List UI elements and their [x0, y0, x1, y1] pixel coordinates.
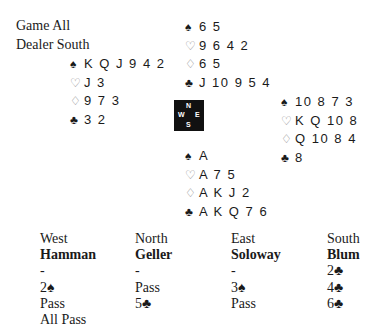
bid: Pass: [135, 280, 231, 296]
compass-north: N: [186, 102, 191, 109]
bid: 6♣: [327, 296, 372, 312]
compass-east: E: [195, 111, 200, 118]
south-diamonds: A K J 2: [199, 185, 251, 200]
heart-icon: ♡: [185, 166, 199, 185]
north-spades: 6 5: [199, 19, 222, 34]
south-hearts: A 7 5: [199, 167, 236, 182]
header-west: West: [40, 231, 135, 247]
club-icon: ♣: [70, 111, 84, 130]
header-south: South: [327, 231, 372, 247]
bidding-round-row: Pass 5♣ Pass 6♣: [40, 296, 372, 312]
south-hand: ♠A ♡A 7 5 ♢A K J 2 ♣A K Q 7 6: [185, 147, 268, 221]
west-diamonds: 9 7 3: [84, 93, 120, 108]
bid: 3♠: [231, 280, 327, 296]
compass-icon: N W E S: [174, 100, 204, 131]
heart-icon: ♡: [281, 112, 295, 131]
heart-icon: ♡: [70, 74, 84, 93]
header-east: East: [231, 231, 327, 247]
compass-south: S: [186, 121, 191, 128]
diamond-icon: ♢: [70, 92, 84, 111]
bid: 2♠: [40, 280, 135, 296]
heart-icon: ♡: [185, 37, 199, 56]
bidding-table: West North East South Hamman Geller Solo…: [40, 231, 372, 326]
north-diamonds: 6 5: [199, 56, 222, 71]
dealer: Dealer South: [16, 35, 89, 54]
bid: -: [231, 263, 327, 279]
spade-icon: ♠: [185, 18, 199, 37]
club-icon: ♣: [281, 149, 295, 168]
player-east: Soloway: [231, 247, 327, 263]
spade-icon: ♠: [281, 93, 295, 112]
deal-info: Game All Dealer South: [16, 16, 89, 54]
bidding-header-row: West North East South: [40, 231, 372, 247]
bid: [135, 312, 231, 326]
diamond-icon: ♢: [281, 130, 295, 149]
east-hand: ♠10 8 7 3 ♡K Q 10 8 ♢Q 10 8 4 ♣8: [281, 93, 358, 167]
west-hand: ♠K Q J 9 4 2 ♡J 3 ♢9 7 3 ♣3 2: [70, 55, 166, 129]
bidding-players-row: Hamman Geller Soloway Blum: [40, 247, 372, 263]
north-clubs: J 10 9 5 4: [199, 75, 271, 90]
south-clubs: A K Q 7 6: [199, 204, 268, 219]
bid: [231, 312, 327, 326]
bid: 4♣: [327, 280, 372, 296]
bid: All Pass: [40, 312, 135, 326]
diamond-icon: ♢: [185, 184, 199, 203]
west-spades: K Q J 9 4 2: [84, 56, 166, 71]
bid: [327, 312, 372, 326]
bid: 2♣: [327, 263, 372, 279]
bid: Pass: [40, 296, 135, 312]
spade-icon: ♠: [185, 147, 199, 166]
south-spades: A: [199, 148, 209, 163]
club-icon: ♣: [185, 74, 199, 93]
club-icon: ♣: [185, 203, 199, 222]
header-north: North: [135, 231, 231, 247]
bidding-round-row: - - - 2♣: [40, 263, 372, 279]
east-diamonds: Q 10 8 4: [295, 131, 357, 146]
east-hearts: K Q 10 8: [295, 113, 358, 128]
north-hand: ♠6 5 ♡9 6 4 2 ♢6 5 ♣J 10 9 5 4: [185, 18, 271, 92]
bid: -: [135, 263, 231, 279]
player-north: Geller: [135, 247, 231, 263]
spade-icon: ♠: [70, 55, 84, 74]
north-hearts: 9 6 4 2: [199, 38, 249, 53]
bid: Pass: [231, 296, 327, 312]
bid: -: [40, 263, 135, 279]
bidding-round-row: 2♠ Pass 3♠ 4♣: [40, 280, 372, 296]
bidding-round-row: All Pass: [40, 312, 372, 326]
player-south: Blum: [327, 247, 372, 263]
west-clubs: 3 2: [84, 112, 107, 127]
east-clubs: 8: [295, 150, 304, 165]
compass-west: W: [178, 111, 185, 118]
west-hearts: J 3: [84, 75, 106, 90]
diamond-icon: ♢: [185, 55, 199, 74]
bid: 5♣: [135, 296, 231, 312]
vulnerability: Game All: [16, 16, 89, 35]
east-spades: 10 8 7 3: [295, 94, 354, 109]
player-west: Hamman: [40, 247, 135, 263]
